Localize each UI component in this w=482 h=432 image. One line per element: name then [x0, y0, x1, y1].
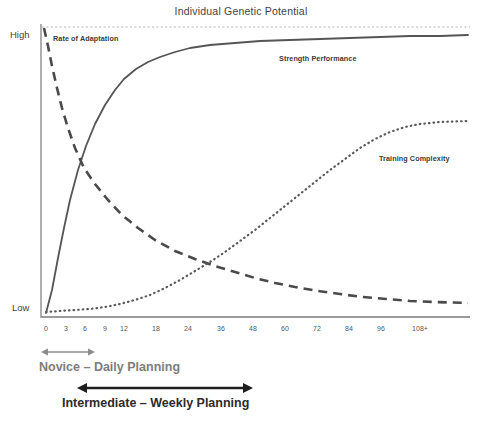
- novice-phase-arrow: [41, 349, 95, 356]
- x-axis-tick-6: 6: [83, 325, 87, 332]
- curve-label-strength-performance: Strength Performance: [279, 54, 357, 63]
- curve-rate-of-adaptation: [44, 28, 468, 303]
- x-axis-tick-9: 9: [103, 325, 107, 332]
- curve-label-rate-of-adaptation: Rate of Adaptation: [53, 34, 118, 43]
- intermediate-phase-arrow: [77, 383, 253, 393]
- curve-strength-performance: [46, 35, 468, 313]
- x-axis-tick-0: 0: [44, 325, 48, 332]
- curve-training-complexity: [46, 121, 468, 312]
- x-axis-tick-18: 18: [152, 325, 160, 332]
- y-axis-label-low: Low: [12, 302, 29, 313]
- x-axis-tick-108plus: 108+: [412, 325, 428, 332]
- x-axis-tick-72: 72: [313, 325, 321, 332]
- x-axis-tick-96: 96: [377, 325, 385, 332]
- chart-title: Individual Genetic Potential: [0, 5, 482, 17]
- x-axis-tick-84: 84: [345, 325, 353, 332]
- x-axis-tick-48: 48: [249, 325, 257, 332]
- chart-figure: Individual Genetic Potential High Low Ra…: [0, 0, 482, 432]
- x-axis-tick-3: 3: [64, 325, 68, 332]
- x-axis-tick-36: 36: [217, 325, 225, 332]
- curve-label-training-complexity: Training Complexity: [379, 154, 450, 163]
- x-axis-tick-60: 60: [281, 325, 289, 332]
- y-axis-label-high: High: [10, 29, 30, 40]
- phase-label-novice: Novice – Daily Planning: [39, 360, 180, 374]
- x-axis-tick-24: 24: [184, 325, 192, 332]
- x-axis-tick-12: 12: [120, 325, 128, 332]
- phase-label-intermediate: Intermediate – Weekly Planning: [62, 396, 249, 410]
